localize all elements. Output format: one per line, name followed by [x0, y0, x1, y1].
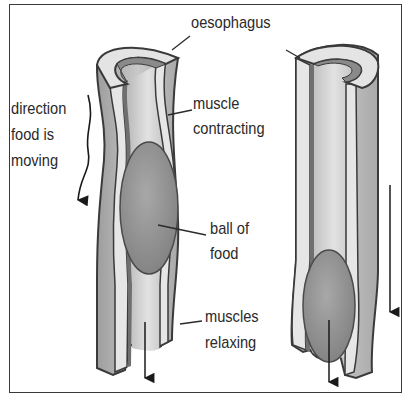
ball-of-food-left — [120, 142, 178, 274]
right-oesophagus-tube — [291, 45, 390, 382]
left-oesophagus-tube — [97, 48, 178, 378]
label-oesophagus: oesophagus — [191, 13, 271, 33]
label-muscles-relaxing-line2: relaxing — [205, 333, 256, 353]
label-direction-line2: food is — [11, 125, 54, 145]
label-muscle-contracting-line2: contracting — [193, 119, 265, 139]
leader-lines — [158, 36, 300, 324]
label-muscle-contracting-line1: muscle — [193, 94, 239, 114]
direction-arrow-icon — [78, 95, 91, 200]
label-direction-line1: direction — [11, 99, 66, 119]
label-direction-line3: moving — [11, 151, 58, 171]
label-ball-of-food-line1: ball of — [210, 219, 249, 239]
label-muscles-relaxing-line1: muscles — [205, 307, 259, 327]
label-ball-of-food-line2: food — [210, 244, 238, 264]
